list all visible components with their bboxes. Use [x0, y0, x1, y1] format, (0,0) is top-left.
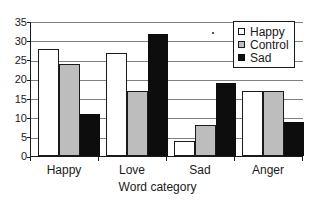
x-tick-mark-2: [166, 157, 167, 161]
legend-swatch-control-icon: [238, 41, 245, 48]
x-tick-label-anger: Anger: [234, 164, 302, 177]
x-axis-title: Word category: [0, 181, 315, 194]
bar-sad-control[interactable]: [195, 125, 216, 156]
bar-sad-sad[interactable]: [216, 83, 236, 156]
x-tick-mark-3: [234, 157, 235, 161]
y-tick-label-20: 20: [3, 74, 27, 85]
bar-anger-control[interactable]: [263, 91, 284, 156]
x-tick-label-happy: Happy: [30, 164, 98, 177]
bar-anger-happy[interactable]: [242, 91, 263, 156]
x-tick-label-love: Love: [98, 164, 166, 177]
y-axis: 35 30 25 20 15 10 5 0: [0, 0, 27, 201]
bar-love-happy[interactable]: [106, 53, 127, 156]
bar-happy-happy[interactable]: [38, 49, 59, 156]
legend-swatch-sad-icon: [238, 54, 245, 61]
x-tick-mark-1: [98, 157, 99, 161]
y-tick-label-5: 5: [3, 132, 27, 143]
y-tick-label-35: 35: [3, 17, 27, 28]
bar-group-love: [106, 22, 168, 156]
bar-sad-happy[interactable]: [174, 141, 195, 156]
bar-love-control[interactable]: [127, 91, 148, 156]
bar-group-happy: [38, 22, 100, 156]
stray-dot: [212, 32, 214, 34]
bar-love-sad[interactable]: [148, 34, 168, 157]
bar-happy-sad[interactable]: [80, 114, 100, 156]
y-tick-label-15: 15: [3, 94, 27, 105]
legend: Happy Control Sad: [233, 21, 295, 68]
bar-chart-figure: 35 30 25 20 15 10 5 0: [0, 0, 315, 201]
legend-item-happy[interactable]: Happy: [238, 25, 289, 38]
y-tick-label-30: 30: [3, 36, 27, 47]
legend-item-sad[interactable]: Sad: [238, 51, 289, 64]
x-tick-mark-4: [302, 157, 303, 161]
x-tick-label-sad: Sad: [166, 164, 234, 177]
y-tick-label-10: 10: [3, 113, 27, 124]
x-tick-mark-0: [30, 157, 31, 161]
legend-item-control[interactable]: Control: [238, 38, 289, 51]
bar-group-sad: [174, 22, 236, 156]
y-tick-label-0: 0: [3, 151, 27, 162]
legend-label-happy: Happy: [250, 26, 285, 38]
bar-anger-sad[interactable]: [284, 122, 304, 157]
legend-label-control: Control: [250, 39, 289, 51]
legend-swatch-happy-icon: [238, 28, 245, 35]
legend-label-sad: Sad: [250, 52, 271, 64]
bar-happy-control[interactable]: [59, 64, 80, 156]
y-tick-label-25: 25: [3, 55, 27, 66]
